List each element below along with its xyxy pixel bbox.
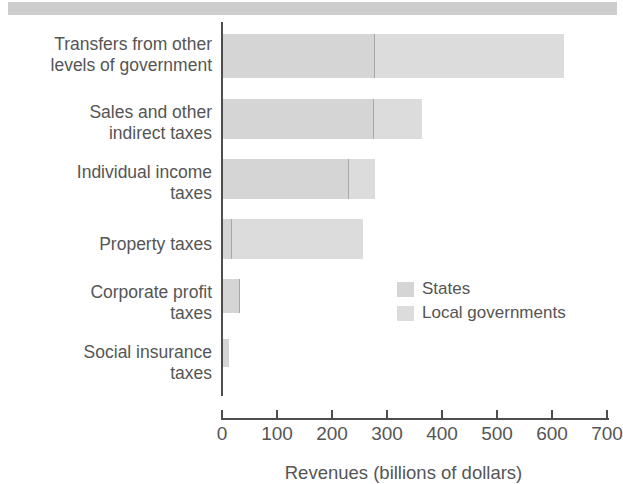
- plot-area: Transfers from other levels of governmen…: [0, 22, 621, 402]
- x-tick: [606, 410, 608, 419]
- x-tick: [386, 410, 388, 419]
- x-tick: [276, 410, 278, 419]
- x-tick: [496, 410, 498, 419]
- x-tick-label: 300: [371, 423, 403, 445]
- legend-item: Local governments: [397, 301, 597, 325]
- bar-segment-local-governments: [348, 159, 376, 199]
- x-tick-label: 100: [261, 423, 293, 445]
- x-tick-label: 0: [217, 423, 228, 445]
- bar-row: [223, 99, 422, 139]
- bar-series-group: [0, 22, 621, 402]
- x-tick: [441, 410, 443, 419]
- x-tick: [331, 410, 333, 419]
- x-tick: [551, 410, 553, 419]
- bar-row: [223, 339, 229, 367]
- bar-row: [223, 159, 375, 199]
- bar-segment-states: [223, 219, 231, 259]
- bar-segment-local-governments: [231, 219, 364, 259]
- bar-segment-states: [223, 339, 229, 367]
- bar-segment-states: [223, 159, 348, 199]
- chart-legend: StatesLocal governments: [397, 277, 597, 325]
- bar-row: [223, 219, 363, 259]
- bar-segment-local-governments: [374, 34, 564, 78]
- x-tick-label: 400: [426, 423, 458, 445]
- bar-row: [223, 34, 564, 78]
- bar-segment-states: [223, 34, 374, 78]
- x-tick-label: 700: [591, 423, 623, 445]
- x-tick: [221, 410, 223, 419]
- top-scan-band: [8, 2, 617, 15]
- bar-segment-local-governments: [239, 279, 240, 313]
- legend-label: States: [422, 279, 470, 299]
- legend-label: Local governments: [422, 303, 566, 323]
- bar-segment-states: [223, 279, 239, 313]
- x-axis-title-text: Revenues (billions of dollars): [99, 462, 523, 483]
- x-tick-label: 500: [481, 423, 513, 445]
- bar-row: [223, 279, 240, 313]
- x-tick-label: 600: [536, 423, 568, 445]
- legend-swatch-icon: [397, 306, 414, 321]
- legend-swatch-icon: [397, 282, 414, 297]
- bar-segment-local-governments: [373, 99, 423, 139]
- legend-item: States: [397, 277, 597, 301]
- bar-segment-states: [223, 99, 373, 139]
- x-axis-title: Revenues (billions of dollars): [0, 462, 621, 484]
- x-tick-label: 200: [316, 423, 348, 445]
